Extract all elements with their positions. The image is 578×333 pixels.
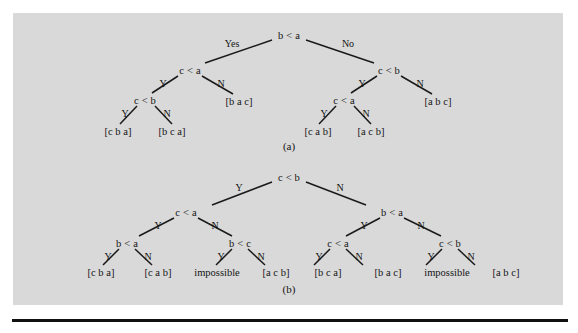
tree-edge-label-root-yes: Yes	[225, 38, 240, 49]
tree-leaf-b-leaf-4: [a c b]	[263, 267, 290, 278]
tree-edge-label-a-RL-y: Y	[320, 108, 327, 119]
tree-leaf-a-leaf-6: [a b c]	[425, 96, 452, 107]
tree-leaf-b-leaf-1: [c b a]	[88, 267, 115, 278]
tree-leaf-a-leaf-4: [c a b]	[305, 126, 332, 137]
tree-node-a-LL: c < b	[134, 95, 156, 106]
tree-node-b-LL: b < a	[116, 238, 138, 249]
tree-edge-label-a-L-y: Y	[159, 78, 166, 89]
tree-edge-label-a-LL-y: Y	[121, 108, 128, 119]
tree-edge-label-a-L-n: N	[217, 78, 224, 89]
tree-edge-label-b-root-n: N	[336, 182, 343, 193]
horizontal-rule	[12, 319, 568, 322]
tree-edge-label-a-R-y: Y	[358, 78, 365, 89]
tree-edge-label-b-RR-n: N	[467, 251, 474, 262]
tree-edge-label-b-R-n: N	[417, 220, 424, 231]
tree-node-a-R: c < b	[378, 65, 400, 76]
tree-edge-label-b-R-y: Y	[360, 220, 367, 231]
tree-edge-label-b-RL-y: Y	[315, 251, 322, 262]
tree-leaf-b-leaf-3: impossible	[194, 267, 240, 278]
tree-edge-label-a-LL-n: N	[163, 108, 170, 119]
tree-edge-label-root-no: No	[342, 38, 354, 49]
tree-node-b-R: b < a	[381, 207, 403, 218]
tree-leaf-a-leaf-5: [a c b]	[358, 126, 385, 137]
tree-edge-label-a-R-n: N	[416, 78, 423, 89]
tree-edge-label-b-RL-n: N	[355, 251, 362, 262]
tree-edge-label-b-LL-y: Y	[104, 251, 111, 262]
tree-edge-label-b-RR-y: Y	[427, 251, 434, 262]
tree-edge-label-b-LR-y: Y	[217, 251, 224, 262]
tree-leaf-b-leaf-2: [c a b]	[145, 267, 172, 278]
tree-leaf-b-leaf-8: [a b c]	[493, 267, 520, 278]
tree-node-b-RL: c < a	[327, 238, 349, 249]
tree-edge-label-b-L-y: Y	[154, 220, 161, 231]
tree-node-root: b < a	[278, 30, 300, 41]
tree-edge-label-b-root-y: Y	[235, 182, 242, 193]
tree-node-root: c < b	[278, 172, 300, 183]
tree-node-a-RL: c < a	[333, 95, 355, 106]
tree-node-b-LR: b < c	[229, 238, 251, 249]
tree-edge-label-b-LL-n: N	[144, 251, 151, 262]
tree-node-a-L: c < a	[179, 65, 201, 76]
tree-leaf-b-leaf-5: [b c a]	[315, 267, 342, 278]
tree-leaf-b-leaf-6: [b a c]	[375, 267, 402, 278]
tree-leaf-a-leaf-3: [b a c]	[226, 96, 253, 107]
figure-caption-a: (a)	[283, 140, 295, 152]
tree-edge-label-b-L-n: N	[211, 220, 218, 231]
tree-node-b-RR: c < b	[439, 238, 461, 249]
tree-edge-label-b-LR-n: N	[257, 251, 264, 262]
tree-leaf-a-leaf-2: [b c a]	[159, 126, 186, 137]
tree-edge	[306, 40, 374, 63]
decision-tree-figure: b < ac < ac < bc < bc < aYesNoYNYNYNYN[c…	[0, 0, 578, 333]
tree-edge-label-a-RL-n: N	[362, 108, 369, 119]
tree-leaf-b-leaf-7: impossible	[424, 267, 470, 278]
figure-caption-b: (b)	[283, 283, 296, 295]
tree-node-b-L: c < a	[175, 207, 197, 218]
tree-leaf-a-leaf-1: [c b a]	[105, 126, 132, 137]
